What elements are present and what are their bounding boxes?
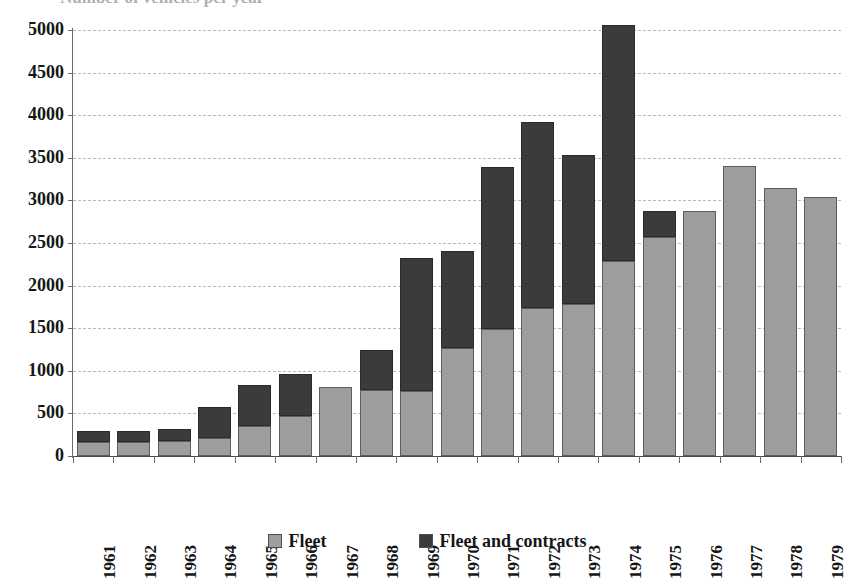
y-axis-tick-label: 5000: [0, 19, 64, 40]
x-axis-tick: [356, 456, 357, 463]
legend-label-fleet: Fleet: [289, 531, 327, 552]
bar-segment-fleet[interactable]: [238, 426, 271, 456]
y-axis-tick-label: 4000: [0, 104, 64, 125]
x-axis-tick: [73, 456, 74, 463]
bar-segment-fleet-and-contracts[interactable]: [117, 431, 150, 442]
x-axis-tick: [154, 456, 155, 463]
bar-segment-fleet-and-contracts[interactable]: [158, 429, 191, 441]
bar-column[interactable]: [441, 30, 474, 456]
x-axis-tick: [437, 456, 438, 463]
y-axis-tick-label: 3500: [0, 147, 64, 168]
y-axis-tick-label: 2500: [0, 232, 64, 253]
bar-segment-fleet-and-contracts[interactable]: [400, 258, 433, 391]
bar-segment-fleet[interactable]: [279, 416, 312, 456]
y-axis-tick-label: 2000: [0, 275, 64, 296]
bar-segment-fleet-and-contracts[interactable]: [521, 122, 554, 308]
bar-column[interactable]: [481, 30, 514, 456]
y-axis-tick-label: 1000: [0, 360, 64, 381]
bar-segment-fleet[interactable]: [643, 237, 676, 456]
bar-segment-fleet[interactable]: [804, 197, 837, 456]
legend-label-fleet-and-contracts: Fleet and contracts: [440, 531, 587, 552]
bar-column[interactable]: [521, 30, 554, 456]
bar-column[interactable]: [198, 30, 231, 456]
bar-column[interactable]: [764, 30, 797, 456]
x-axis-tick: [720, 456, 721, 463]
bar-segment-fleet-and-contracts[interactable]: [481, 167, 514, 329]
bar-column[interactable]: [643, 30, 676, 456]
bar-column[interactable]: [117, 30, 150, 456]
legend-item-fleet-and-contracts[interactable]: Fleet and contracts: [419, 531, 587, 552]
bar-segment-fleet[interactable]: [117, 442, 150, 456]
x-axis-tick: [598, 456, 599, 463]
bar-column[interactable]: [804, 30, 837, 456]
legend-item-fleet[interactable]: Fleet: [268, 531, 327, 552]
x-axis-tick: [477, 456, 478, 463]
chart-legend: Fleet Fleet and contracts: [0, 527, 854, 555]
bar-column[interactable]: [319, 30, 352, 456]
bar-column[interactable]: [158, 30, 191, 456]
bar-segment-fleet-and-contracts[interactable]: [441, 251, 474, 348]
bar-segment-fleet-and-contracts[interactable]: [77, 431, 110, 442]
bar-segment-fleet[interactable]: [319, 387, 352, 456]
x-axis-tick: [801, 456, 802, 463]
bar-segment-fleet-and-contracts[interactable]: [643, 211, 676, 237]
y-axis-tick-label: 0: [0, 445, 64, 466]
x-axis-tick: [518, 456, 519, 463]
bar-segment-fleet[interactable]: [441, 348, 474, 456]
y-axis-tick-label: 4500: [0, 62, 64, 83]
square-swatch-icon: [419, 534, 433, 548]
x-axis-tick: [396, 456, 397, 463]
bar-column[interactable]: [723, 30, 756, 456]
x-axis-tick: [194, 456, 195, 463]
bar-segment-fleet[interactable]: [521, 308, 554, 456]
x-axis-tick: [558, 456, 559, 463]
bar-column[interactable]: [400, 30, 433, 456]
bar-segment-fleet[interactable]: [481, 329, 514, 456]
bar-segment-fleet[interactable]: [764, 188, 797, 456]
x-axis-tick: [235, 456, 236, 463]
x-axis-tick: [639, 456, 640, 463]
bar-segment-fleet[interactable]: [400, 391, 433, 456]
y-axis-tick-label: 500: [0, 402, 64, 423]
bar-segment-fleet[interactable]: [77, 442, 110, 456]
bar-column[interactable]: [279, 30, 312, 456]
x-axis-tick: [316, 456, 317, 463]
bar-segment-fleet[interactable]: [562, 304, 595, 457]
x-axis-tick: [113, 456, 114, 463]
bar-column[interactable]: [602, 30, 635, 456]
square-swatch-icon: [268, 534, 282, 548]
bar-segment-fleet-and-contracts[interactable]: [360, 350, 393, 390]
bar-segment-fleet-and-contracts[interactable]: [602, 25, 635, 261]
bar-column[interactable]: [238, 30, 271, 456]
bar-segment-fleet[interactable]: [602, 261, 635, 456]
bar-segment-fleet-and-contracts[interactable]: [562, 155, 595, 303]
bar-column[interactable]: [562, 30, 595, 456]
page-title: Number of vehicles per year: [60, 0, 264, 8]
bar-segment-fleet[interactable]: [198, 438, 231, 456]
x-axis-tick: [275, 456, 276, 463]
bar-column[interactable]: [360, 30, 393, 456]
x-axis-labels: 1961196219631964196519661967196819691970…: [73, 463, 841, 521]
bar-series-area: [73, 30, 841, 456]
x-axis-tick: [760, 456, 761, 463]
bar-column[interactable]: [683, 30, 716, 456]
bar-column[interactable]: [77, 30, 110, 456]
bar-segment-fleet-and-contracts[interactable]: [279, 374, 312, 416]
bar-segment-fleet-and-contracts[interactable]: [198, 407, 231, 438]
x-axis-tick: [841, 456, 842, 463]
x-axis-tick: [679, 456, 680, 463]
chart-title-cropped: Number of vehicles per year: [0, 0, 854, 12]
bar-segment-fleet[interactable]: [723, 166, 756, 456]
bar-segment-fleet[interactable]: [683, 211, 716, 456]
bar-segment-fleet-and-contracts[interactable]: [238, 385, 271, 426]
y-axis-tick-label: 1500: [0, 317, 64, 338]
y-axis-tick-label: 3000: [0, 189, 64, 210]
bar-segment-fleet[interactable]: [360, 390, 393, 456]
bar-segment-fleet[interactable]: [158, 441, 191, 456]
